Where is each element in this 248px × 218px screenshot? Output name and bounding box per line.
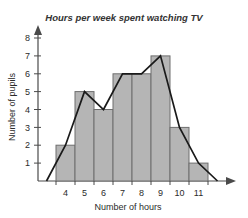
table-row [132,74,151,181]
chart-title: Hours per week spent watching TV [45,12,203,23]
x-tick-label-7: 7 [120,188,125,198]
y-tick-label-4: 4 [25,105,30,115]
histogram-chart: Hours per week spent watching TV 8 7 6 5… [0,0,248,218]
table-row [113,74,132,181]
x-tick-label-6: 6 [101,188,106,198]
y-tick-label-1: 1 [25,158,30,168]
y-tick-label-7: 7 [25,51,30,61]
table-row [151,56,170,181]
x-axis-title: Number of hours [94,202,162,212]
x-tick-label-4: 4 [63,188,68,198]
x-tick-label-8: 8 [139,188,144,198]
table-row [170,127,189,181]
table-row [56,145,75,181]
x-axis-arrow-icon [226,177,236,185]
chart-figure: Hours per week spent watching TV 8 7 6 5… [0,0,248,218]
y-axis-title: Number of pupils [7,72,17,141]
y-axis-tick-labels: 8 7 6 5 4 3 2 1 [25,33,30,168]
x-axis-tick-labels: 4 5 6 7 8 9 10 11 [63,188,203,198]
y-axis-arrow-icon [34,25,42,35]
y-tick-label-5: 5 [25,87,30,97]
x-axis-ticks [56,181,208,185]
y-tick-label-2: 2 [25,140,30,150]
table-row [75,92,94,181]
x-tick-label-11: 11 [194,188,203,198]
x-tick-label-5: 5 [82,188,87,198]
x-tick-label-10: 10 [174,188,184,198]
table-row [94,110,113,182]
y-tick-label-6: 6 [25,69,30,79]
y-tick-label-3: 3 [25,123,30,133]
table-row [189,163,208,181]
x-tick-label-9: 9 [158,188,163,198]
bars-group [56,56,208,181]
y-tick-label-8: 8 [25,33,30,43]
